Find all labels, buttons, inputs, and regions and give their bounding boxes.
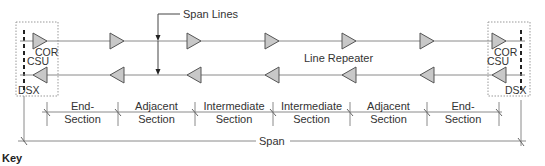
section-label-line2: Section [216,113,253,125]
span-lines-pointer [158,14,180,38]
span-lines-arrowhead-upper [156,35,161,41]
section-label-line1: End- [451,100,475,112]
upper-line-repeater [187,33,201,49]
section-label-line1: End- [71,100,95,112]
lower-line-repeater [265,67,279,83]
upper-line-repeater [420,33,434,49]
span-lines-label: Span Lines [183,8,239,20]
left-csu-repeater [33,67,47,83]
line-repeater-label: Line Repeater [304,52,373,64]
span-lines-arrowhead-lower [156,69,161,75]
right-csu-repeater [492,67,506,83]
upper-line-repeater [110,33,124,49]
section-label-line2: Section [64,113,101,125]
lower-line-repeater [342,67,356,83]
right-dsx-label: DSX [505,84,527,96]
section-label-line2: Section [445,113,482,125]
section-label-line2: Section [138,113,175,125]
upper-line-repeater [342,33,356,49]
span-label: Span [259,135,285,147]
section-label-line1: Adjacent [367,100,410,112]
right-csu-label: CSU [487,55,509,67]
lower-line-repeater [187,67,201,83]
span-diagram: Span Lines Line Repeater COR CSU DSX COR… [0,0,545,166]
lower-line-repeater [420,67,434,83]
section-label-line2: Section [370,113,407,125]
section-label-line1: Intermediate [281,100,342,112]
section-label-line1: Intermediate [203,100,264,112]
key-label: Key [2,152,23,164]
left-csu-label: CSU [27,55,49,67]
section-label-line1: Adjacent [135,100,178,112]
section-label-line2: Section [293,113,330,125]
lower-line-repeater [110,67,124,83]
upper-line-repeater [265,33,279,49]
left-dsx-label: DSX [18,84,40,96]
